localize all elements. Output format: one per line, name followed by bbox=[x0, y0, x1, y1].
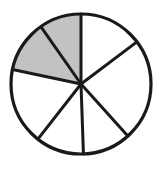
fraction-circle-diagram: Fraction circle divided into seven equal… bbox=[0, 0, 163, 170]
figure-root: Fraction circle divided into seven equal… bbox=[0, 0, 163, 170]
